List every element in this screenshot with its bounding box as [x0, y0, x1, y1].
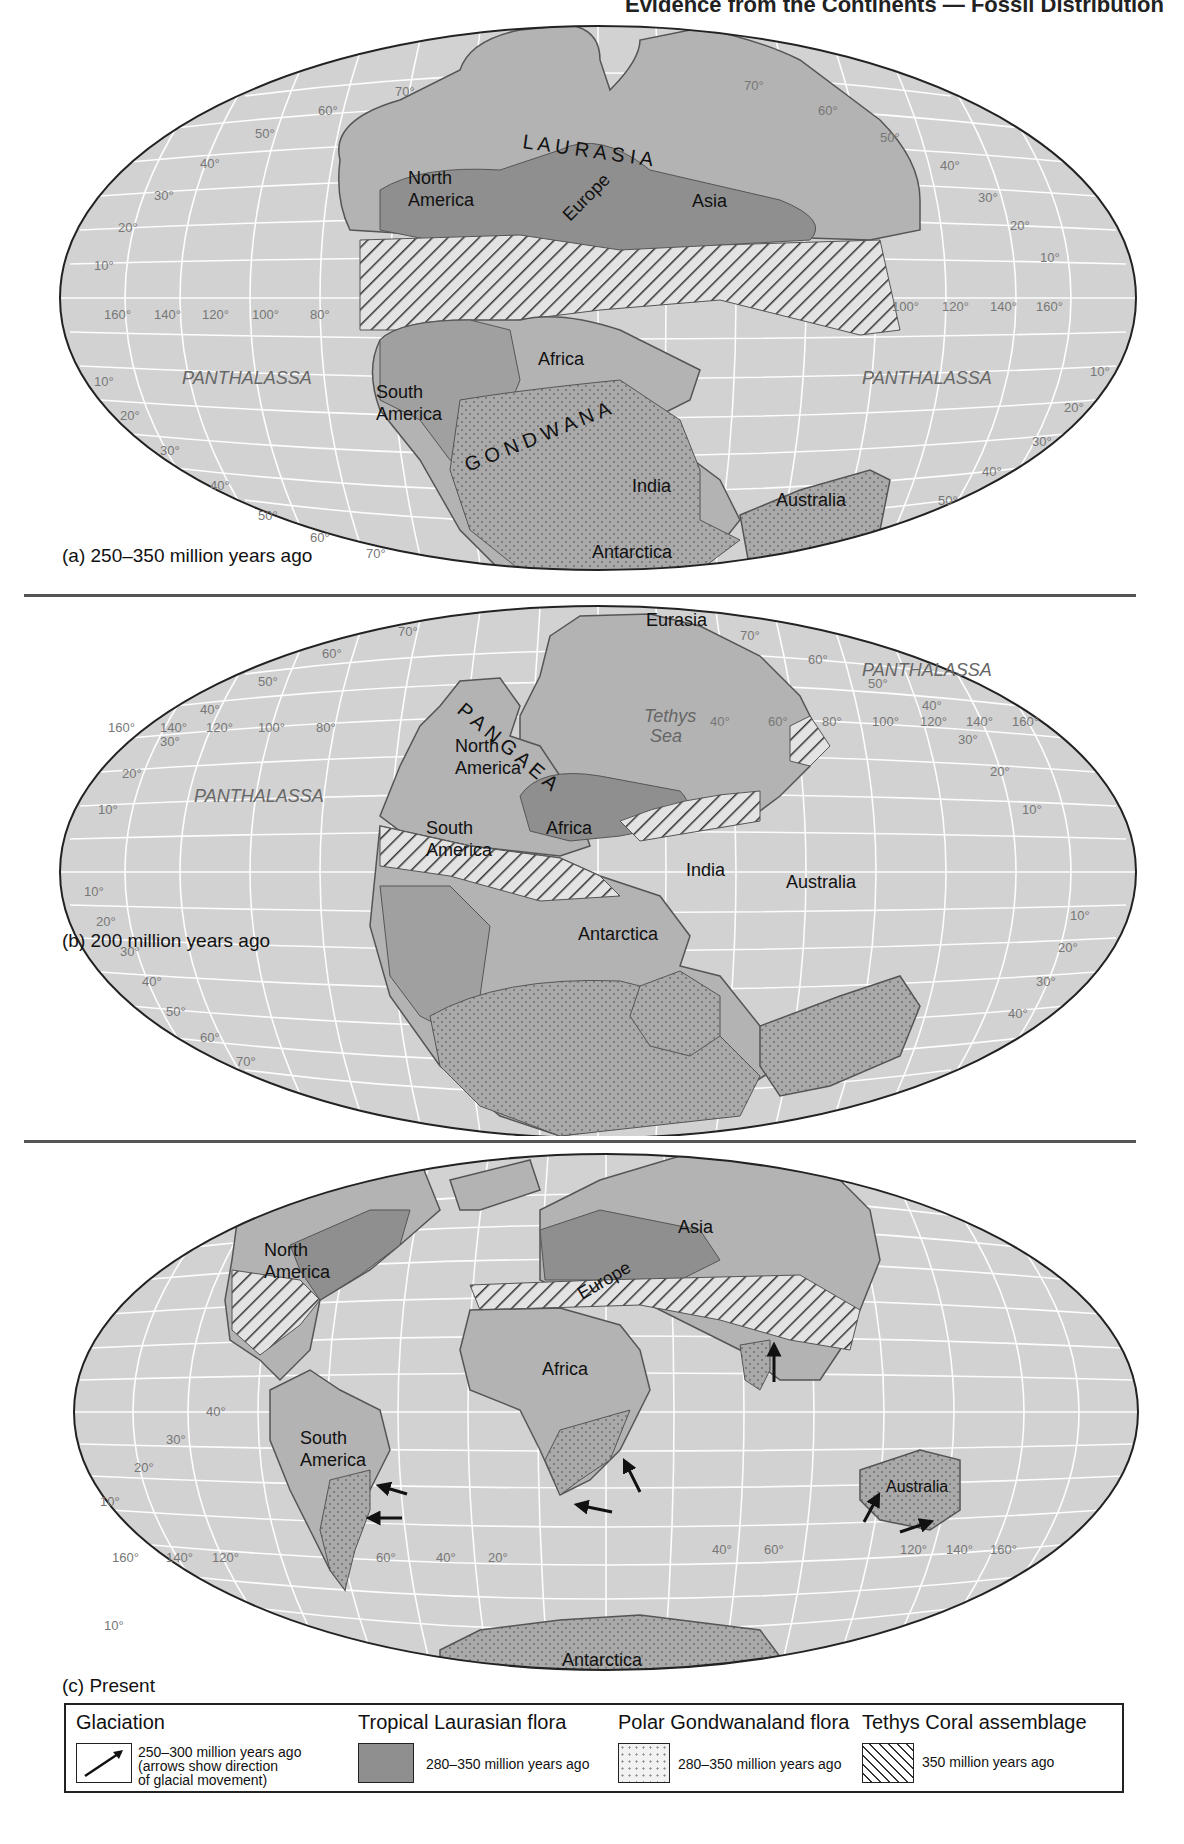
svg-text:60°: 60°	[818, 103, 838, 118]
svg-text:60°: 60°	[310, 530, 330, 545]
svg-text:20°: 20°	[134, 1460, 154, 1475]
svg-text:120°: 120°	[206, 720, 233, 735]
svg-text:10°: 10°	[84, 884, 104, 899]
svg-text:10°: 10°	[100, 1494, 120, 1509]
svg-text:50°: 50°	[258, 674, 278, 689]
legend-polar-text: 280–350 million years ago	[678, 1757, 841, 1771]
map-b-svg: NorthAmerica Eurasia SouthAmerica Africa…	[0, 596, 1184, 1136]
svg-text:140°: 140°	[154, 307, 181, 322]
svg-text:120°: 120°	[942, 299, 969, 314]
hatch-swatch-icon	[862, 1743, 914, 1783]
svg-text:50°: 50°	[166, 1004, 186, 1019]
svg-text:20°: 20°	[1064, 400, 1084, 415]
label-eurasia: Eurasia	[646, 610, 708, 630]
legend-glaciation: Glaciation 250–300 million years ago (ar…	[76, 1711, 165, 1734]
svg-text:30°: 30°	[958, 732, 978, 747]
svg-text:160°: 160°	[108, 720, 135, 735]
legend-glaciation-title: Glaciation	[76, 1711, 165, 1734]
legend-glaciation-line1: 250–300 million years ago	[138, 1745, 301, 1759]
legend-tropical-text: 280–350 million years ago	[426, 1757, 589, 1771]
svg-text:40°: 40°	[206, 1404, 226, 1419]
svg-text:70°: 70°	[740, 628, 760, 643]
svg-text:50°: 50°	[938, 493, 958, 508]
svg-text:20°: 20°	[118, 220, 138, 235]
svg-text:10°: 10°	[104, 1618, 124, 1633]
svg-text:80°: 80°	[316, 720, 336, 735]
legend-tropical: Tropical Laurasian flora 280–350 million…	[358, 1711, 566, 1734]
svg-text:60°: 60°	[376, 1550, 396, 1565]
svg-text:160°: 160°	[1036, 299, 1063, 314]
map-panel-c: NorthAmerica Europe Asia Africa SouthAme…	[0, 1150, 1184, 1690]
legend: Glaciation 250–300 million years ago (ar…	[64, 1703, 1124, 1793]
legend-polar-title: Polar Gondwanaland flora	[618, 1711, 849, 1734]
svg-text:20°: 20°	[120, 408, 140, 423]
legend-glaciation-line3: of glacial movement)	[138, 1773, 301, 1787]
svg-text:10°: 10°	[1090, 364, 1110, 379]
svg-text:70°: 70°	[744, 78, 764, 93]
legend-coral-text: 350 million years ago	[922, 1755, 1054, 1769]
svg-text:20°: 20°	[990, 764, 1010, 779]
svg-text:120°: 120°	[202, 307, 229, 322]
svg-text:60°: 60°	[322, 646, 342, 661]
svg-text:40°: 40°	[710, 714, 730, 729]
caption-a: (a) 250–350 million years ago	[62, 545, 312, 567]
svg-text:10°: 10°	[94, 374, 114, 389]
svg-text:60°: 60°	[318, 103, 338, 118]
svg-text:80°: 80°	[822, 714, 842, 729]
label-tethys: Tethys	[644, 706, 696, 726]
svg-text:30°: 30°	[154, 188, 174, 203]
svg-text:30°: 30°	[1036, 974, 1056, 989]
svg-text:140°: 140°	[160, 720, 187, 735]
label-india-a: India	[632, 476, 672, 496]
svg-text:20°: 20°	[1010, 218, 1030, 233]
svg-text:30°: 30°	[160, 734, 180, 749]
svg-text:70°: 70°	[366, 546, 386, 561]
svg-text:60°: 60°	[768, 714, 788, 729]
svg-text:70°: 70°	[398, 624, 418, 639]
svg-text:160°: 160°	[112, 1550, 139, 1565]
svg-text:30°: 30°	[1032, 434, 1052, 449]
svg-text:60°: 60°	[200, 1030, 220, 1045]
svg-text:40°: 40°	[200, 702, 220, 717]
label-sea: Sea	[650, 726, 682, 746]
svg-text:120°: 120°	[212, 1550, 239, 1565]
label-australia-b: Australia	[786, 872, 857, 892]
svg-text:30°: 30°	[160, 443, 180, 458]
svg-text:20°: 20°	[122, 766, 142, 781]
svg-text:140°: 140°	[166, 1550, 193, 1565]
svg-text:10°: 10°	[1070, 908, 1090, 923]
svg-text:10°: 10°	[1040, 250, 1060, 265]
svg-text:50°: 50°	[880, 130, 900, 145]
label-india-b: India	[686, 860, 726, 880]
svg-text:40°: 40°	[1008, 1006, 1028, 1021]
svg-text:80°: 80°	[310, 307, 330, 322]
label-africa-a: Africa	[538, 349, 585, 369]
svg-text:20°: 20°	[96, 914, 116, 929]
svg-text:160°: 160°	[104, 307, 131, 322]
svg-text:60°: 60°	[764, 1542, 784, 1557]
svg-text:40°: 40°	[436, 1550, 456, 1565]
map-panel-a: NorthAmerica Asia Europe Africa SouthAme…	[0, 0, 1184, 580]
svg-text:40°: 40°	[210, 478, 230, 493]
svg-text:10°: 10°	[98, 802, 118, 817]
svg-text:10°: 10°	[1022, 802, 1042, 817]
svg-text:40°: 40°	[922, 698, 942, 713]
svg-text:70°: 70°	[236, 1054, 256, 1069]
label-panthalassa-a-west: PANTHALASSA	[182, 368, 312, 388]
svg-text:140°: 140°	[946, 1542, 973, 1557]
tropical-swatch-icon	[358, 1743, 414, 1783]
label-africa-c: Africa	[542, 1359, 589, 1379]
svg-text:30°: 30°	[978, 190, 998, 205]
legend-glaciation-line2: (arrows show direction	[138, 1759, 301, 1773]
svg-text:120°: 120°	[920, 714, 947, 729]
svg-text:100°: 100°	[892, 299, 919, 314]
svg-text:40°: 40°	[712, 1542, 732, 1557]
svg-text:50°: 50°	[868, 676, 888, 691]
label-antarctica-b: Antarctica	[578, 924, 659, 944]
legend-polar: Polar Gondwanaland flora 280–350 million…	[618, 1711, 849, 1734]
svg-text:40°: 40°	[982, 464, 1002, 479]
legend-coral: Tethys Coral assemblage 350 million year…	[862, 1711, 1087, 1734]
svg-text:100°: 100°	[252, 307, 279, 322]
svg-text:140°: 140°	[990, 299, 1017, 314]
map-c-svg: NorthAmerica Europe Asia Africa SouthAme…	[0, 1150, 1184, 1690]
